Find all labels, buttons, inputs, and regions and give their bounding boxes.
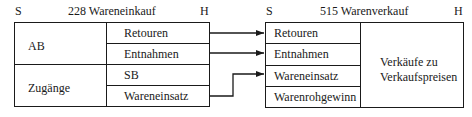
left-debit-entry-zugaenge: Zugänge <box>28 81 70 95</box>
left-account-title: 228 Wareneinkauf <box>68 4 156 18</box>
left-account-credit-label: H <box>200 4 209 18</box>
right-account-debit-separator-3 <box>265 86 360 87</box>
left-account-credit-separator-2 <box>106 64 210 65</box>
right-account-debit-separator-2 <box>265 65 360 66</box>
right-account-debit-separator-1 <box>265 43 360 44</box>
left-account-debit-separator <box>14 64 106 65</box>
right-debit-entry-wareneinsatz: Wareneinsatz <box>274 69 338 83</box>
right-account-credit-label: H <box>454 4 463 18</box>
left-account-debit-label: S <box>15 4 22 18</box>
right-debit-entry-retouren: Retouren <box>274 26 318 40</box>
right-credit-entry-line2: Verkaufspreisen <box>380 70 457 84</box>
right-account-debit-label: S <box>266 4 273 18</box>
left-credit-entry-retouren: Retouren <box>124 26 168 40</box>
left-account-credit-separator-3 <box>106 85 210 86</box>
left-credit-entry-wareneinsatz: Wareneinsatz <box>124 89 188 103</box>
right-debit-entry-entnahmen: Entnahmen <box>274 47 329 61</box>
right-credit-entry-line1: Verkäufe zu <box>380 55 438 69</box>
left-account-credit-separator-1 <box>106 43 210 44</box>
right-account-divider <box>360 22 361 108</box>
left-credit-entry-sb: SB <box>124 68 139 82</box>
arrow-wareneinsatz <box>210 74 264 96</box>
right-debit-entry-warenrohgewinn: Warenrohgewinn <box>274 90 356 104</box>
left-debit-entry-ab: AB <box>28 39 45 53</box>
right-account-title: 515 Warenverkauf <box>320 4 408 18</box>
left-credit-entry-entnahmen: Entnahmen <box>124 47 179 61</box>
